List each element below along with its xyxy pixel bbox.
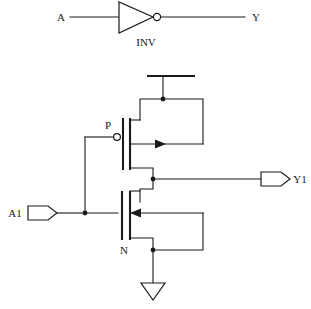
- nmos-drain-wire: [140, 179, 153, 202]
- circuit-diagram: A Y INV: [0, 0, 311, 309]
- pmos-gate-bubble-icon: [114, 134, 121, 141]
- transistor-schematic-group: P Y1 N: [8, 76, 306, 300]
- inverter-input-label: A: [57, 11, 65, 23]
- output-port-y1-label: Y1: [293, 173, 306, 185]
- output-port-y1-shape: [261, 172, 290, 186]
- input-port-a1-label: A1: [8, 207, 21, 219]
- pmos-source-wire: [140, 99, 163, 120]
- nmos-source-wire: [130, 238, 153, 250]
- schematic-canvas: A Y INV: [0, 0, 311, 309]
- input-port-a1-shape: [28, 206, 57, 220]
- inversion-bubble-icon: [153, 13, 160, 20]
- nmos-label: N: [120, 244, 128, 256]
- pmos-label: P: [105, 119, 111, 131]
- pmos-bulk-tie-wire: [163, 99, 203, 144]
- nmos-bulk-tie-wire: [153, 213, 203, 250]
- gnd-triangle-icon: [141, 283, 165, 300]
- pmos-bulk-arrow-icon: [155, 140, 166, 149]
- inverter-output-label: Y: [252, 11, 260, 23]
- inverter-triangle-body: [119, 2, 153, 33]
- inverter-gate-label: INV: [136, 36, 156, 48]
- inverter-symbol-group: A Y INV: [57, 2, 260, 48]
- pmos-drain-wire: [130, 168, 153, 179]
- nmos-bulk-arrow-icon: [130, 209, 141, 218]
